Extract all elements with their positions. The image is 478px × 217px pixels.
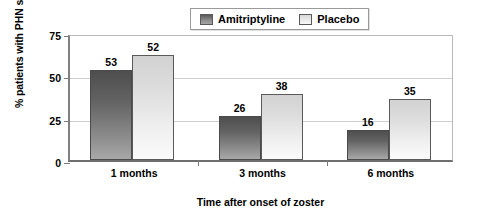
bar-value-label: 38: [276, 80, 288, 92]
plot-area: 0255075 535226381635 1 months3 months6 m…: [68, 35, 453, 162]
bar-3-months-placebo: 38: [261, 94, 303, 160]
y-axis-tick-label: 75: [49, 30, 61, 42]
legend-swatch-icon: [200, 14, 213, 25]
bar-value-label: 26: [234, 102, 246, 114]
legend: AmitriptylinePlacebo: [190, 8, 369, 30]
y-axis-tick: [64, 121, 70, 122]
legend-label: Amitriptyline: [218, 13, 285, 25]
y-axis-tick: [64, 163, 70, 164]
x-axis-tick: [198, 160, 199, 166]
y-axis-tick-label: 0: [55, 157, 61, 169]
y-axis-tick: [64, 36, 70, 37]
bar-chart: % patients with PHN symptoms 0255075 535…: [0, 0, 478, 217]
legend-label: Placebo: [317, 13, 359, 25]
legend-swatch-icon: [299, 14, 312, 25]
y-axis-title: % patients with PHN symptoms: [11, 0, 27, 108]
bar-value-label: 53: [105, 56, 117, 68]
y-axis-tick-label: 25: [49, 115, 61, 127]
bar-value-label: 52: [147, 41, 159, 53]
bar-1-months-amitriptyline: 53: [90, 70, 132, 160]
bar-value-label: 16: [362, 116, 374, 128]
bar-1-months-placebo: 52: [132, 55, 174, 160]
y-axis-tick: [64, 78, 70, 79]
x-axis-category-label: 1 months: [111, 167, 158, 179]
x-axis-category-label: 3 months: [239, 167, 286, 179]
x-axis-title: Time after onset of zoster: [68, 196, 453, 208]
y-axis-tick-label: 50: [49, 72, 61, 84]
legend-item-amitriptyline[interactable]: Amitriptyline: [200, 13, 285, 25]
x-axis-tick: [327, 160, 328, 166]
bar-3-months-amitriptyline: 26: [219, 116, 261, 160]
bar-value-label: 35: [404, 85, 416, 97]
x-axis-category-label: 6 months: [367, 167, 414, 179]
bar-6-months-amitriptyline: 16: [347, 130, 389, 160]
bar-6-months-placebo: 35: [389, 99, 431, 160]
legend-item-placebo[interactable]: Placebo: [299, 13, 359, 25]
